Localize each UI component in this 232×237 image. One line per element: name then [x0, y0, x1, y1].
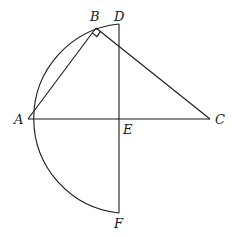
label-A: A: [13, 112, 23, 127]
label-F: F: [113, 216, 124, 231]
label-E: E: [122, 122, 133, 137]
segment-BC: [96, 28, 210, 119]
label-D: D: [113, 9, 125, 24]
label-C: C: [215, 112, 225, 127]
label-B: B: [89, 9, 100, 24]
segment-AB: [28, 28, 96, 119]
geometry-diagram: A B D C E F: [0, 0, 232, 237]
